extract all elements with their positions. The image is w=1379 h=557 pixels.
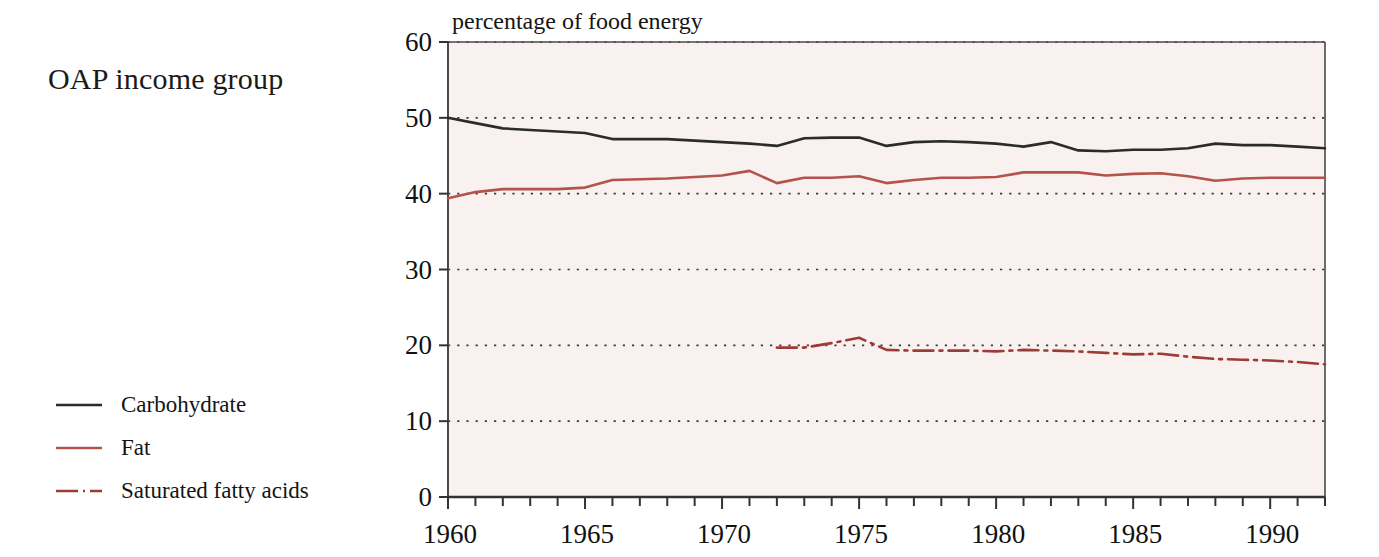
y-tick-label-30: 30 [405,255,432,285]
x-tick-label-1980: 1980 [971,519,1025,549]
y-tick-label-40: 40 [405,179,432,209]
y-tick-label-0: 0 [419,482,433,512]
plot-area: 0102030405060196019651970197519801985199… [0,0,1379,557]
chart-figure: OAP income group percentage of food ener… [0,0,1379,557]
x-tick-label-1985: 1985 [1108,519,1162,549]
x-tick-label-1975: 1975 [834,519,888,549]
y-tick-label-20: 20 [405,330,432,360]
x-tick-label-1960: 1960 [423,519,477,549]
y-tick-label-10: 10 [405,406,432,436]
y-tick-label-50: 50 [405,103,432,133]
x-tick-label-1990: 1990 [1245,519,1299,549]
x-tick-label-1965: 1965 [560,519,614,549]
x-tick-label-1970: 1970 [697,519,751,549]
y-tick-label-60: 60 [405,27,432,57]
